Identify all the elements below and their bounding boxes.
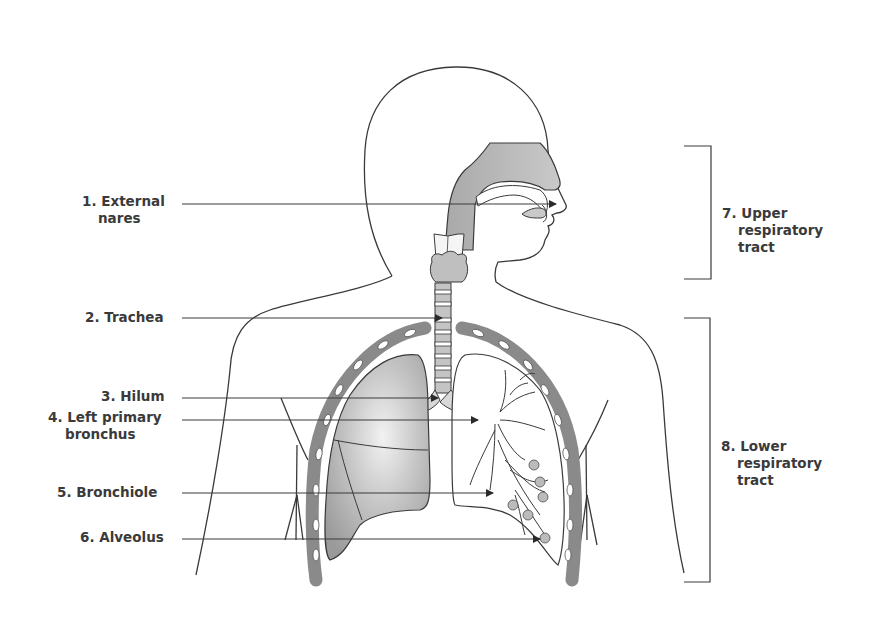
tongue xyxy=(522,208,546,218)
upper-tract-bracket xyxy=(684,146,711,279)
label-text: nares xyxy=(82,210,165,227)
label-upper-respiratory-tract: 7. Upper respiratory tract xyxy=(722,205,823,256)
brackets xyxy=(684,146,711,582)
label-text: 2. Trachea xyxy=(85,309,164,325)
label-bronchiole: 5. Bronchiole xyxy=(57,484,157,501)
label-text: 4. Left primary xyxy=(48,409,162,425)
label-text: respiratory xyxy=(722,222,823,239)
label-lower-respiratory-tract: 8. Lower respiratory tract xyxy=(721,438,822,489)
thyroid-cartilage xyxy=(430,251,467,282)
upper-airway xyxy=(430,143,560,282)
label-text: tract xyxy=(722,239,823,256)
label-text: 5. Bronchiole xyxy=(57,484,157,500)
label-text: bronchus xyxy=(48,426,162,443)
label-external-nares: 1. External nares xyxy=(82,193,165,227)
label-alveolus: 6. Alveolus xyxy=(80,529,164,546)
label-text: 1. External xyxy=(82,193,165,209)
label-text: respiratory xyxy=(721,455,822,472)
label-text: 8. Lower xyxy=(721,438,822,455)
label-text: 7. Upper xyxy=(722,205,823,222)
label-trachea: 2. Trachea xyxy=(85,309,164,326)
label-text: 6. Alveolus xyxy=(80,529,164,545)
label-left-primary-bronchus: 4. Left primary bronchus xyxy=(48,409,162,443)
label-text: 3. Hilum xyxy=(101,388,164,404)
lower-tract-bracket xyxy=(684,318,710,582)
label-hilum: 3. Hilum xyxy=(101,388,164,405)
label-text: tract xyxy=(721,472,822,489)
